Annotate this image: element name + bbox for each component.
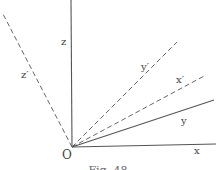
y-axis: [72, 100, 214, 147]
y-prime-axis: [72, 42, 177, 147]
x-prime-axis: [72, 75, 206, 147]
z-prime-axis: [3, 14, 72, 147]
origin-label: O: [62, 148, 72, 162]
x-prime-axis-label: x′: [176, 74, 185, 85]
z-prime-axis-label: z′: [21, 69, 29, 80]
z-axis: [71, 0, 72, 147]
z-axis-label: z: [61, 36, 66, 47]
y-prime-axis-label: y′: [140, 61, 150, 72]
axes-diagram: zz′y′x′yx O Fig. 48: [0, 0, 216, 170]
figure-caption: Fig. 48: [88, 164, 127, 170]
x-axis-label: x: [194, 145, 200, 156]
y-axis-label: y: [180, 115, 187, 126]
